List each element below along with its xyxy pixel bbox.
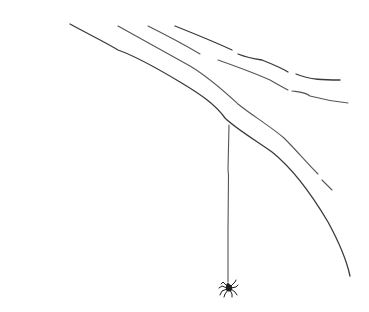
silk-thread: [228, 125, 229, 282]
branch-lines: [70, 24, 350, 276]
branch-line-3: [148, 26, 200, 54]
branch-line-4b: [238, 54, 288, 72]
drawing-canvas: Spider hanging by a thread from a branch: [0, 0, 369, 312]
branch-line-lower: [70, 24, 350, 276]
line-drawing: [0, 0, 369, 312]
spider-icon: [219, 280, 238, 297]
branch-line-2: [118, 26, 318, 174]
branch-line-3c: [292, 91, 348, 103]
branch-line-3b: [218, 60, 288, 90]
branch-line-4: [175, 26, 232, 50]
branch-line-4c: [296, 74, 340, 80]
branch-line-2-tail: [322, 180, 332, 190]
